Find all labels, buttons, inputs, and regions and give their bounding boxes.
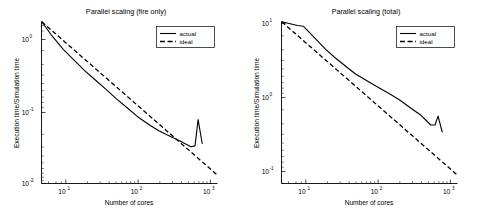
x-axis-tick-labels: 10 1 10 2 10 3 — [298, 186, 455, 195]
legend[interactable]: actual ideal — [157, 27, 215, 48]
y-tick-label-exponent: -2 — [30, 178, 35, 183]
x-tick-label-exponent: 2 — [140, 186, 143, 191]
x-tick-label-base: 10 — [371, 188, 379, 195]
y-axis-label: Execution time/Simulation time — [13, 58, 20, 148]
y-axis-major-ticks — [282, 24, 286, 172]
y-tick-label-base: 10 — [22, 109, 30, 116]
y-tick-label-base: 10 — [262, 168, 270, 175]
x-tick-label-base: 10 — [298, 188, 306, 195]
plot-svg-total: Parallel scaling (total) — [240, 0, 480, 216]
plot-svg-fire-only: Parallel scaling (fire only) — [0, 0, 240, 216]
x-tick-label-exponent: 1 — [68, 186, 71, 191]
x-tick-label-base: 10 — [203, 188, 211, 195]
y-tick-label-exponent: 1 — [270, 18, 273, 23]
panel-total: Parallel scaling (total) — [240, 0, 480, 216]
legend-label-actual: actual — [420, 30, 437, 37]
x-tick-label-exponent: 1 — [308, 186, 311, 191]
x-axis-label: Number of cores — [105, 199, 154, 206]
y-tick-label-exponent: -1 — [30, 107, 35, 112]
x-tick-label-base: 10 — [131, 188, 139, 195]
y-axis-major-ticks — [42, 40, 46, 184]
x-axis-tick-labels: 10 1 10 2 10 3 — [58, 186, 215, 195]
y-tick-label-exponent: 0 — [30, 34, 33, 39]
legend-label-ideal: ideal — [420, 38, 433, 45]
y-axis-tick-labels: 10 0 10 -1 10 -2 — [22, 34, 34, 187]
figure-two-panel-scaling-plots: Parallel scaling (fire only) — [0, 0, 480, 216]
y-tick-label-base: 10 — [22, 180, 30, 187]
x-tick-label-exponent: 3 — [212, 186, 215, 191]
x-tick-label-exponent: 3 — [452, 186, 455, 191]
x-axis-label: Number of cores — [345, 199, 394, 206]
y-tick-label-base: 10 — [22, 36, 30, 43]
legend[interactable]: actual ideal — [397, 27, 455, 48]
x-tick-label-exponent: 2 — [380, 186, 383, 191]
y-axis-tick-labels: 10 1 10 0 10 -1 — [262, 18, 274, 175]
legend-label-ideal: ideal — [180, 38, 193, 45]
legend-label-actual: actual — [180, 30, 197, 37]
x-tick-label-base: 10 — [58, 188, 66, 195]
chart-title: Parallel scaling (total) — [332, 7, 401, 16]
y-axis-label: Execution time/Simulation time — [253, 58, 260, 148]
chart-title: Parallel scaling (fire only) — [86, 7, 166, 16]
panel-fire-only: Parallel scaling (fire only) — [0, 0, 240, 216]
y-tick-label-exponent: 0 — [270, 92, 273, 97]
y-tick-label-exponent: -1 — [270, 166, 275, 171]
y-tick-label-base: 10 — [262, 20, 270, 27]
x-tick-label-base: 10 — [443, 188, 451, 195]
y-tick-label-base: 10 — [262, 94, 270, 101]
